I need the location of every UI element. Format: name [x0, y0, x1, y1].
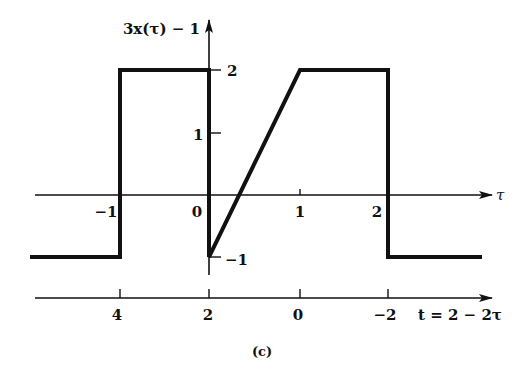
- figure-caption: (c): [252, 344, 272, 359]
- tau-axis-label: τ: [496, 186, 505, 204]
- tau-tick-label: −1: [94, 203, 117, 221]
- y-tick-label: 2: [227, 62, 237, 80]
- t-axis-label: t = 2 − 2τ: [418, 306, 502, 324]
- y-tick-label: −1: [225, 251, 248, 269]
- tau-tick-label: 0: [192, 203, 202, 221]
- y-axis-label: 3x(τ) − 1: [123, 20, 200, 38]
- t-tick-label: 0: [293, 306, 303, 324]
- t-tick-label: −2: [373, 306, 396, 324]
- diagram-canvas: 3x(τ) − 1 τ −1 0 1 2 2 1 −1 4 2 0 −2 t =…: [0, 0, 523, 373]
- signal-diagram: 3x(τ) − 1 τ −1 0 1 2 2 1 −1 4 2 0 −2 t =…: [0, 0, 523, 373]
- tau-tick-label: 2: [372, 203, 382, 221]
- t-tick-label: 4: [112, 306, 122, 324]
- tau-tick-label: 1: [295, 203, 305, 221]
- signal-curve: [30, 70, 482, 257]
- y-tick-label: 1: [193, 126, 203, 144]
- t-tick-label: 2: [203, 306, 213, 324]
